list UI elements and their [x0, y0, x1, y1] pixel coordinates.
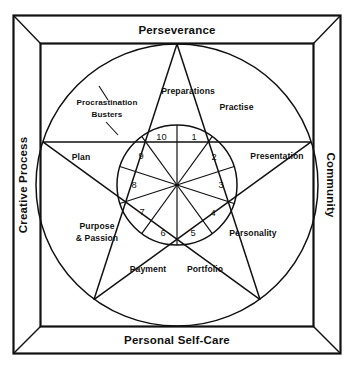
inner-number-1: 1 — [191, 132, 196, 142]
frame-label-top: Perseverance — [138, 24, 215, 36]
inner-number-2: 2 — [211, 152, 216, 162]
frame-label-right: Community — [325, 152, 337, 217]
ring-label-procrastination-line1: Procrastination — [77, 98, 138, 107]
inner-number-7: 7 — [139, 207, 144, 217]
inner-number-8: 8 — [131, 180, 136, 190]
inner-number-4: 4 — [210, 208, 215, 218]
ring-label-plan: Plan — [72, 152, 91, 162]
ring-label-practise: Practise — [219, 102, 253, 112]
inner-number-9: 9 — [138, 151, 143, 161]
ring-label-presentation: Presentation — [250, 151, 303, 161]
wheel-canvas: Perseverance Personal Self-Care Creative… — [0, 0, 354, 369]
inner-number-10: 10 — [156, 132, 166, 142]
ring-label-preparations: Preparations — [161, 86, 215, 96]
inner-number-5: 5 — [190, 228, 195, 238]
ring-label-personality: Personality — [229, 228, 277, 238]
ring-label-payment: Payment — [130, 264, 167, 274]
frame-label-left: Creative Process — [17, 137, 29, 234]
inner-number-6: 6 — [160, 228, 165, 238]
ring-label-procrastination-line2: Busters — [92, 110, 123, 119]
frame-label-bottom: Personal Self-Care — [124, 334, 230, 346]
inner-number-3: 3 — [218, 180, 223, 190]
ring-label-portfolio: Portfolio — [187, 264, 223, 274]
ring-label-purpose-line2: & Passion — [76, 233, 118, 243]
creative-process-wheel-diagram: Perseverance Personal Self-Care Creative… — [0, 0, 354, 369]
ring-label-purpose-line1: Purpose — [79, 221, 114, 231]
